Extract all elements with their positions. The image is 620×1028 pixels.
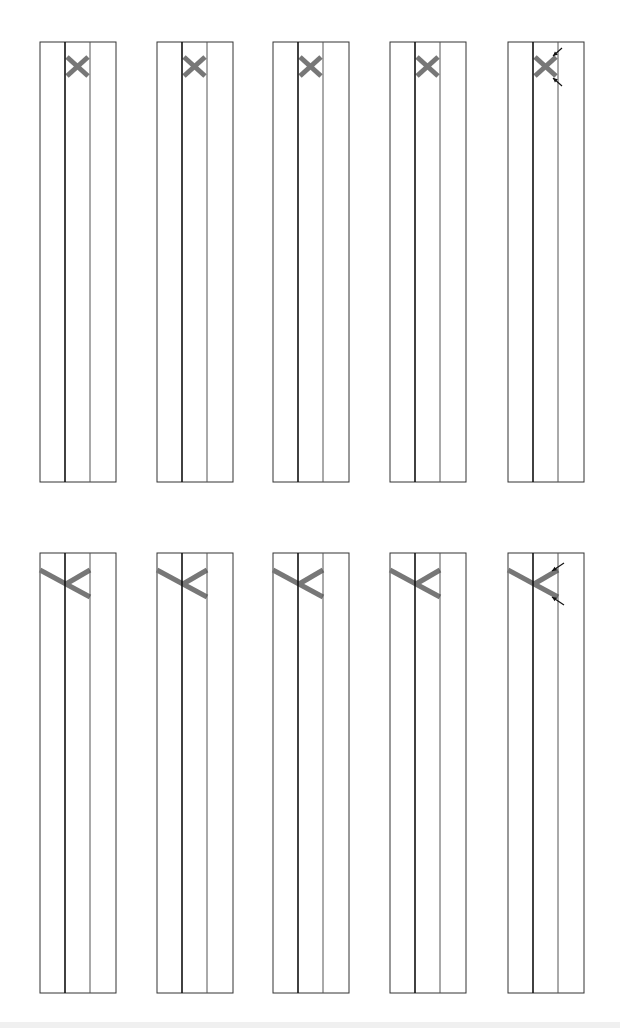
bottom-edge (0, 1022, 620, 1028)
panel-2-2 (157, 553, 233, 993)
x-cross-mark (67, 57, 88, 76)
panel-1-2 (157, 42, 233, 482)
panel-2-4 (390, 553, 466, 993)
x-cross-mark (535, 57, 556, 76)
panel-2-1 (40, 553, 116, 993)
x-cross-mark (184, 57, 205, 76)
panel-1-1 (40, 42, 116, 482)
panel-1-5 (508, 42, 584, 482)
panel-1-4 (390, 42, 466, 482)
diagram-canvas (0, 0, 620, 1028)
panel-1-3 (273, 42, 349, 482)
x-cross-mark (300, 57, 321, 76)
panel-2-3 (273, 553, 349, 993)
x-cross-mark (417, 57, 438, 76)
panel-2-5 (508, 553, 584, 993)
